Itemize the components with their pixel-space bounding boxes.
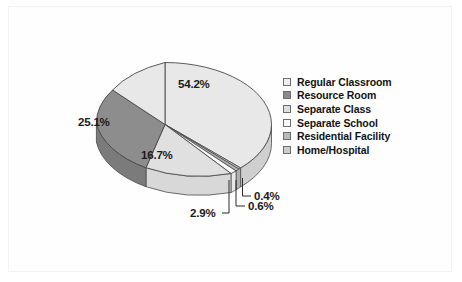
legend-label-residential-facility: Residential Facility bbox=[297, 130, 390, 142]
legend-swatch-separate-school bbox=[283, 119, 291, 127]
legend-swatch-home-hospital bbox=[283, 146, 291, 154]
label-separate-school: 2.9% bbox=[190, 207, 215, 219]
pie-chart: 54.2% 25.1% 16.7% 2.9% 0.6% 0.4% Regular… bbox=[0, 0, 462, 282]
legend-item-separate-class: Separate Class bbox=[283, 102, 453, 116]
legend-label-separate-school: Separate School bbox=[297, 117, 378, 129]
legend-label-home-hospital: Home/Hospital bbox=[297, 144, 369, 156]
legend-swatch-regular-classroom bbox=[283, 78, 291, 86]
legend-label-regular-classroom: Regular Classroom bbox=[297, 76, 392, 88]
chart-legend: Regular Classroom Resource Room Separate… bbox=[283, 75, 453, 157]
label-home-hospital: 0.4% bbox=[254, 190, 279, 202]
label-resource-room: 25.1% bbox=[78, 116, 110, 128]
legend-label-separate-class: Separate Class bbox=[297, 103, 371, 115]
legend-swatch-residential-facility bbox=[283, 132, 291, 140]
label-separate-class: 16.7% bbox=[141, 149, 173, 161]
legend-swatch-separate-class bbox=[283, 105, 291, 113]
legend-item-home-hospital: Home/Hospital bbox=[283, 143, 453, 157]
label-regular-classroom: 54.2% bbox=[178, 78, 210, 90]
legend-label-resource-room: Resource Room bbox=[297, 89, 376, 101]
legend-item-residential-facility: Residential Facility bbox=[283, 129, 453, 143]
legend-swatch-resource-room bbox=[283, 91, 291, 99]
legend-item-separate-school: Separate School bbox=[283, 116, 453, 130]
legend-item-resource-room: Resource Room bbox=[283, 89, 453, 103]
legend-item-regular-classroom: Regular Classroom bbox=[283, 75, 453, 89]
